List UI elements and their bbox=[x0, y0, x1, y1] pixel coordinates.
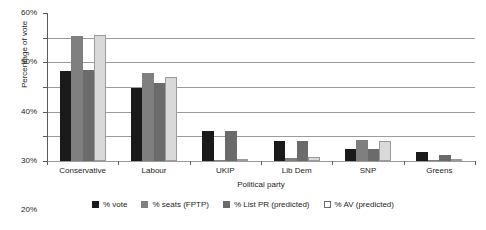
legend-item[interactable]: % vote bbox=[92, 200, 127, 209]
bar bbox=[94, 35, 106, 161]
x-axis-category-label: SNP bbox=[332, 166, 403, 175]
bar bbox=[297, 141, 309, 161]
legend-label: % AV (predicted) bbox=[335, 200, 394, 209]
legend-item[interactable]: % AV (predicted) bbox=[324, 200, 394, 209]
x-axis-category-label: UKIP bbox=[190, 166, 261, 175]
bar bbox=[154, 83, 166, 161]
legend-swatch-icon bbox=[324, 201, 331, 208]
legend-label: % vote bbox=[103, 200, 127, 209]
bar-group bbox=[118, 13, 189, 161]
x-axis-tick bbox=[118, 161, 119, 165]
bar-group bbox=[261, 13, 332, 161]
x-axis-tick bbox=[475, 161, 476, 165]
legend-swatch-icon bbox=[92, 201, 99, 208]
bar bbox=[83, 70, 95, 161]
x-axis-tick bbox=[261, 161, 262, 165]
bar bbox=[60, 71, 72, 161]
legend-swatch-icon bbox=[141, 201, 148, 208]
legend-swatch-icon bbox=[223, 201, 230, 208]
bar-group bbox=[47, 13, 118, 161]
bar bbox=[416, 152, 428, 161]
legend-label: % seats (FPTP) bbox=[152, 200, 208, 209]
bar bbox=[71, 36, 83, 161]
chart-legend: % vote% seats (FPTP)% List PR (predicted… bbox=[0, 200, 486, 209]
plot-area: 0%10%20%30%40%50%60% bbox=[47, 13, 475, 161]
x-axis-category-label: Greens bbox=[404, 166, 475, 175]
bar bbox=[274, 141, 286, 161]
bar bbox=[131, 88, 143, 161]
y-axis-tick-label: 30% bbox=[21, 157, 37, 165]
chart-container: Percentage of vote 0%10%20%30%40%50%60% … bbox=[0, 0, 486, 230]
x-axis-category-label: Labour bbox=[118, 166, 189, 175]
bar-group bbox=[404, 13, 475, 161]
x-axis-title: Political party bbox=[47, 180, 475, 189]
bar bbox=[356, 140, 368, 161]
x-axis-tick bbox=[190, 161, 191, 165]
y-axis-tick-label: 40% bbox=[21, 108, 37, 116]
category-labels: ConservativeLabourUKIPLib DemSNPGreens bbox=[47, 166, 475, 178]
bar-group bbox=[332, 13, 403, 161]
bar bbox=[345, 149, 357, 161]
x-axis-category-label: Lib Dem bbox=[261, 166, 332, 175]
legend-label: % List PR (predicted) bbox=[234, 200, 310, 209]
x-axis-tick bbox=[404, 161, 405, 165]
bar bbox=[379, 141, 391, 161]
bar bbox=[202, 131, 214, 161]
x-axis-tick bbox=[47, 161, 48, 165]
bar-series-group bbox=[47, 13, 475, 161]
bar bbox=[165, 77, 177, 161]
legend-item[interactable]: % List PR (predicted) bbox=[223, 200, 310, 209]
y-axis-tick-label: 50% bbox=[21, 58, 37, 66]
y-axis-tick-label: 60% bbox=[21, 9, 37, 17]
x-axis-category-label: Conservative bbox=[47, 166, 118, 175]
bar bbox=[225, 131, 237, 161]
legend-item[interactable]: % seats (FPTP) bbox=[141, 200, 208, 209]
bar bbox=[142, 73, 154, 161]
bar-group bbox=[190, 13, 261, 161]
x-axis-tick bbox=[332, 161, 333, 165]
bar bbox=[368, 149, 380, 161]
